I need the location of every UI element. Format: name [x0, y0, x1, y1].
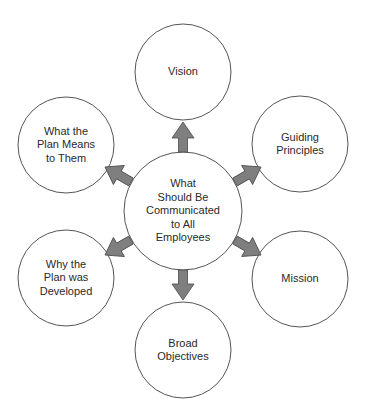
node-label-vision: Vision: [135, 24, 231, 120]
node-label-mission: Mission: [252, 231, 348, 327]
center-label: What Should Be Communicated to All Emplo…: [124, 152, 242, 270]
node-label-guiding-principles: Guiding Principles: [252, 96, 348, 192]
node-label-broad-objectives: Broad Objectives: [135, 302, 231, 398]
arrow-icon-to-vision: [172, 122, 194, 152]
node-label-why-developed: Why the Plan was Developed: [18, 230, 114, 326]
node-label-what-means: What the Plan Means to Them: [18, 97, 114, 193]
arrow-icon-to-broad-objectives: [172, 270, 194, 300]
